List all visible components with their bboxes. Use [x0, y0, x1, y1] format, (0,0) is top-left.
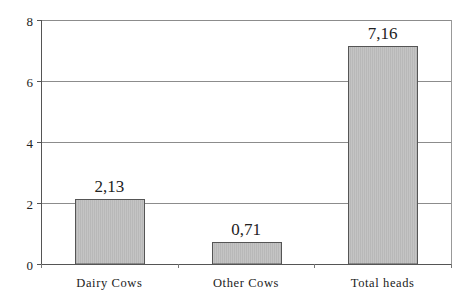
- x-axis-category-labels: Dairy CowsOther CowsTotal heads: [76, 276, 414, 290]
- category-label: Other Cows: [213, 276, 279, 290]
- bar-total-heads: [349, 47, 418, 265]
- category-label: Dairy Cows: [76, 276, 142, 290]
- category-label: Total heads: [351, 276, 415, 290]
- data-label: 7,16: [368, 24, 398, 43]
- y-tick-label: 0: [27, 258, 34, 273]
- y-tick-label: 8: [27, 14, 34, 29]
- y-tick-label: 4: [27, 136, 34, 151]
- y-axis-tick-labels: 02468: [27, 14, 34, 273]
- bar-other-cows: [213, 243, 282, 265]
- bar-dairy-cows: [76, 200, 145, 265]
- bar-chart: 02468 Dairy CowsOther CowsTotal heads 2,…: [0, 0, 473, 303]
- data-label: 2,13: [94, 177, 124, 196]
- y-tick-label: 6: [27, 75, 34, 90]
- y-tick-label: 2: [27, 197, 34, 212]
- data-label: 0,71: [231, 220, 261, 239]
